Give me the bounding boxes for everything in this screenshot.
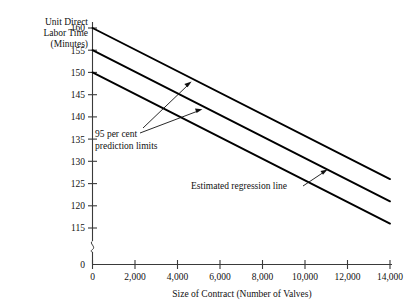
y-tick-label-120: 120: [71, 201, 86, 211]
x-tick-label-6000: 6,000: [209, 272, 231, 282]
y-tick-label-115: 115: [71, 223, 85, 233]
y-tick-label-145: 145: [71, 90, 86, 100]
x-axis-title: Size of Contract (Number of Valves): [172, 289, 311, 300]
x-tick-label-10000: 10,000: [292, 272, 318, 282]
x-tick-label-12000: 12,000: [334, 272, 360, 282]
y-tick-label-160: 160: [71, 23, 86, 33]
x-tick-label-0: 0: [90, 272, 95, 282]
x-tick-label-8000: 8,000: [252, 272, 274, 282]
prediction-limits-annotation-line-1: 95 per cent: [95, 129, 138, 139]
regression-line-annotation: Estimated regression line: [191, 181, 287, 191]
y-tick-label-130: 130: [71, 157, 86, 167]
regression-chart-svg: Unit Direct Labor Time (Minutes) 160 155…: [0, 0, 412, 306]
y-tick-label-125: 125: [71, 179, 86, 189]
chart-figure: Unit Direct Labor Time (Minutes) 160 155…: [0, 0, 412, 306]
x-tick-label-4000: 4,000: [167, 272, 189, 282]
y-tick-label-0: 0: [80, 260, 85, 270]
y-tick-label-140: 140: [71, 112, 86, 122]
y-tick-label-150: 150: [71, 68, 86, 78]
prediction-limits-annotation-line-2: prediction limits: [95, 141, 158, 151]
y-tick-label-135: 135: [71, 135, 86, 145]
y-tick-label-155: 155: [71, 46, 86, 56]
x-tick-label-2000: 2,000: [124, 272, 146, 282]
x-tick-label-14000: 14,000: [377, 272, 403, 282]
